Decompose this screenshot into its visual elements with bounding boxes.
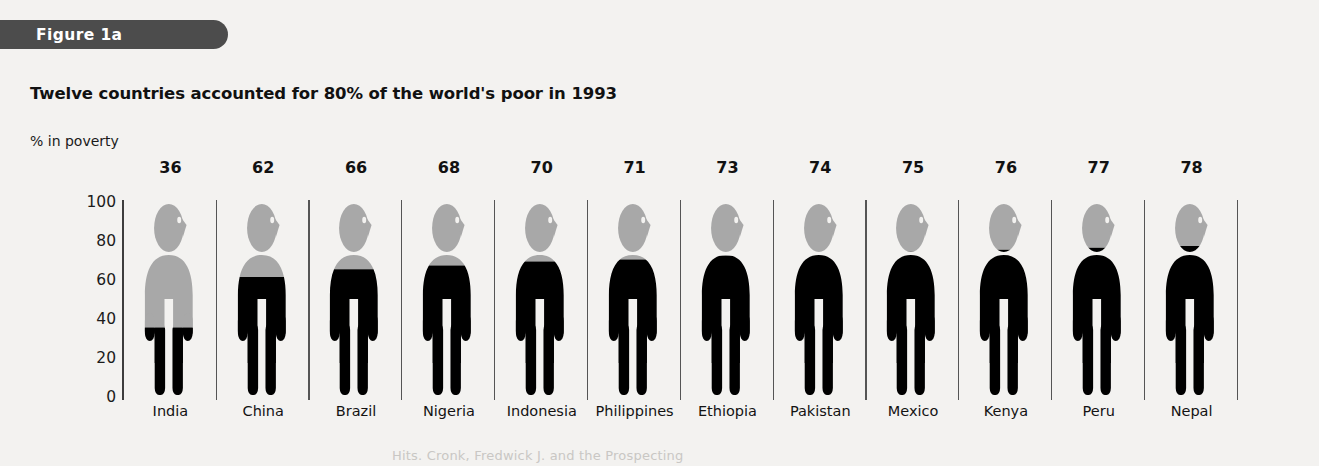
- country-column[interactable]: 75 Mexico: [867, 0, 960, 466]
- poverty-value-label: 78: [1145, 160, 1238, 176]
- y-axis-tick-label: 0: [70, 390, 116, 406]
- country-column[interactable]: 62 China: [217, 0, 310, 466]
- poverty-value-label: 66: [310, 160, 403, 176]
- country-column[interactable]: 71 Philippines: [588, 0, 681, 466]
- country-column[interactable]: 77 Peru: [1052, 0, 1145, 466]
- pictogram-wrapper: [697, 203, 758, 398]
- country-label: Indonesia: [495, 404, 588, 419]
- country-label: Pakistan: [774, 404, 867, 419]
- country-column[interactable]: 70 Indonesia: [495, 0, 588, 466]
- country-label: Peru: [1052, 404, 1145, 419]
- pictogram-wrapper: [790, 203, 851, 398]
- country-label: Brazil: [310, 404, 403, 419]
- pictogram-wrapper: [418, 203, 479, 398]
- y-axis-tick-label: 40: [70, 312, 116, 328]
- poverty-value-label: 71: [588, 160, 681, 176]
- pictogram-figure: [1068, 203, 1129, 398]
- poverty-value-label: 73: [681, 160, 774, 176]
- pictogram-figure: [511, 203, 572, 398]
- chart-plot-area: 100806040200 36 India62: [0, 0, 1319, 466]
- pictogram-wrapper: [604, 203, 665, 398]
- poverty-value-label: 74: [774, 160, 867, 176]
- y-axis-tick-label: 100: [70, 195, 116, 211]
- country-column[interactable]: 73 Ethiopia: [681, 0, 774, 466]
- poverty-value-label: 77: [1052, 160, 1145, 176]
- column-separator: [1237, 200, 1238, 400]
- country-column[interactable]: 66 Brazil: [310, 0, 403, 466]
- country-label: Nepal: [1145, 404, 1238, 419]
- pictogram-columns: 36 India62: [124, 0, 1238, 466]
- poverty-value-label: 70: [495, 160, 588, 176]
- poverty-value-label: 76: [960, 160, 1053, 176]
- pictogram-figure: [140, 203, 201, 398]
- pictogram-figure: [697, 203, 758, 398]
- pictogram-figure: [233, 203, 294, 398]
- country-column[interactable]: 74 Pakistan: [774, 0, 867, 466]
- y-axis-ticks: 100806040200: [62, 0, 116, 466]
- poverty-value-label: 36: [124, 160, 217, 176]
- pictogram-wrapper: [511, 203, 572, 398]
- pictogram-wrapper: [140, 203, 201, 398]
- country-label: India: [124, 404, 217, 419]
- pictogram-figure: [975, 203, 1036, 398]
- poverty-value-label: 62: [217, 160, 310, 176]
- pictogram-wrapper: [975, 203, 1036, 398]
- page-bleed-text: Hits. Cronk, Fredwick J. and the Prospec…: [392, 448, 684, 463]
- pictogram-wrapper: [233, 203, 294, 398]
- y-axis-tick-label: 20: [70, 351, 116, 367]
- y-axis-tick-label: 80: [70, 234, 116, 250]
- country-column[interactable]: 36 India: [124, 0, 217, 466]
- figure-page: Figure 1a Twelve countries accounted for…: [0, 0, 1319, 466]
- pictogram-figure: [790, 203, 851, 398]
- country-label: Mexico: [867, 404, 960, 419]
- country-column[interactable]: 78 Nepal: [1145, 0, 1238, 466]
- pictogram-figure: [882, 203, 943, 398]
- country-label: Kenya: [960, 404, 1053, 419]
- pictogram-wrapper: [882, 203, 943, 398]
- pictogram-figure: [418, 203, 479, 398]
- country-label: China: [217, 404, 310, 419]
- poverty-value-label: 75: [867, 160, 960, 176]
- pictogram-figure: [1161, 203, 1222, 398]
- country-label: Philippines: [588, 404, 681, 419]
- pictogram-wrapper: [1161, 203, 1222, 398]
- pictogram-wrapper: [325, 203, 386, 398]
- pictogram-figure: [604, 203, 665, 398]
- country-column[interactable]: 68 Nigeria: [403, 0, 496, 466]
- pictogram-figure: [325, 203, 386, 398]
- y-axis-tick-label: 60: [70, 273, 116, 289]
- country-label: Nigeria: [403, 404, 496, 419]
- country-column[interactable]: 76 Kenya: [960, 0, 1053, 466]
- country-label: Ethiopia: [681, 404, 774, 419]
- poverty-value-label: 68: [403, 160, 496, 176]
- pictogram-wrapper: [1068, 203, 1129, 398]
